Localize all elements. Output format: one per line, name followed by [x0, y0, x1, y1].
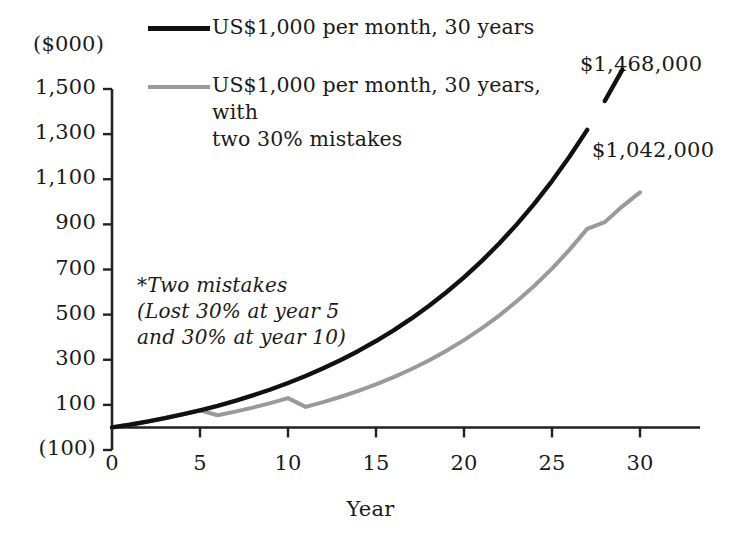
x-axis-tick-label: 25: [522, 451, 582, 475]
x-axis-tick-label: 5: [170, 451, 230, 475]
y-axis-tick-label: 500: [10, 301, 96, 325]
y-axis-tick-label: 300: [10, 346, 96, 370]
y-axis-tick-label: 1,500: [10, 75, 96, 99]
y-axis-tick-label: 700: [10, 256, 96, 280]
y-axis-tick-label: 1,100: [10, 165, 96, 189]
series-line-gray-with-mistakes: [112, 192, 640, 427]
x-axis-tick-label: 20: [434, 451, 494, 475]
x-axis-title: Year: [0, 497, 741, 521]
series-group: [112, 70, 640, 428]
x-axis-tick-label: 15: [346, 451, 406, 475]
y-axis-tick-label: 1,300: [10, 120, 96, 144]
investment-growth-chart: ($000) US$1,000 per month, 30 years US$1…: [0, 0, 741, 547]
series-line-black-baseline: [112, 130, 587, 428]
x-axis-tick-label: 0: [82, 451, 142, 475]
series-line-black-baseline-tip: [605, 70, 623, 101]
axis-group: [103, 89, 700, 450]
x-axis-tick-label: 10: [258, 451, 318, 475]
x-axis-tick-label: 30: [610, 451, 670, 475]
y-axis-tick-label: 100: [10, 391, 96, 415]
y-axis-tick-label: 900: [10, 210, 96, 234]
